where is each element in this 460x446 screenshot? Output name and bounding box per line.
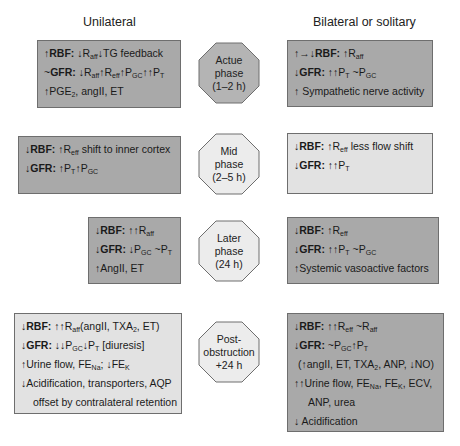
bilateral-mid-box: ↓RBF: ↑Reff less flow shift ↓GFR: ↑↑PT	[287, 133, 433, 194]
urea-line: ANP, urea	[294, 393, 437, 412]
phase-mid-octagon: Mid phase (2–5 h)	[198, 133, 260, 195]
bilateral-acute-box: ↑→↓RBF: ↑Raff ↓GFR: ↑↑PT ~PGC ↑ Sympathe…	[287, 40, 433, 107]
rbf-line: ↓RBF: ↑↑Reff ~Raff	[294, 317, 437, 336]
phase-label: Mid phase (2–5 h)	[212, 145, 245, 184]
gfr-line: ↓GFR: ↑PT↑PGC	[25, 159, 174, 178]
unilateral-title: Unilateral	[83, 15, 136, 29]
rbf-line: ↓RBF: ↑Reff less flow shift	[294, 137, 426, 156]
unilateral-mid-box: ↓RBF: ↑Reff shift to inner cortex ↓GFR: …	[18, 136, 181, 194]
phase-acute-octagon: Actue phase (1–2 h)	[198, 42, 260, 104]
phase-label: Actue phase (1–2 h)	[212, 54, 245, 93]
unilateral-post-box: ↓RBF: ↑↑Raff(angII, TXA2, ET) ↓GFR: ↓↓PG…	[14, 313, 182, 414]
systemic-line: ↑Systemic vasoactive factors	[294, 259, 432, 278]
gfr-line: ↓GFR: ↑↑PT ~PGC	[294, 63, 426, 82]
sympathetic-line: ↑ Sympathetic nerve activity	[294, 82, 426, 101]
unilateral-acute-box: ↑RBF: ↓Raff↓TG feedback ~GFR: ↓Raff↑Reff…	[37, 40, 181, 108]
gfr-line: ↓GFR: ↑↑PT ~PGC	[294, 240, 432, 259]
phase-label: Post- obstruction +24 h	[203, 333, 254, 372]
gfr-line: ↓GFR: ~PGC↑PT	[294, 336, 437, 355]
acidification-line: ↓Acidification, transporters, AQP	[21, 374, 175, 393]
bilateral-title: Bilateral or solitary	[313, 15, 416, 29]
mediator-line: (↑angII, ET, TXA2, ANP, ↓NO)	[294, 355, 437, 374]
bilateral-later-box: ↓RBF: ↑Reff ↓GFR: ↑↑PT ~PGC ↑Systemic va…	[287, 217, 439, 284]
rbf-line: ↓RBF: ↑↑Raff	[95, 221, 174, 240]
phase-later-octagon: Later phase (24 h)	[198, 220, 260, 282]
rbf-line: ↓RBF: ↑↑Raff(angII, TXA2, ET)	[21, 317, 175, 336]
mediator-line: ↑AngII, ET	[95, 259, 174, 278]
urine-line: ↑Urine flow, FENa; ↓FEK	[21, 355, 175, 374]
gfr-line: ~GFR: ↓Raff↑Reff↑PGC↑↑PT	[44, 63, 174, 82]
phase-post-octagon: Post- obstruction +24 h	[198, 321, 260, 383]
phase-label: Later phase (24 h)	[215, 232, 244, 271]
mediator-line: ↑PGE2, angII, ET	[44, 82, 174, 101]
acidification-line: ↓ Acidification	[294, 412, 437, 431]
rbf-line: ↑RBF: ↓Raff↓TG feedback	[44, 44, 174, 63]
rbf-line: ↓RBF: ↑Reff shift to inner cortex	[25, 140, 174, 159]
rbf-line: ↑→↓RBF: ↑Raff	[294, 44, 426, 63]
gfr-line: ↓GFR: ↓↓PGC↓PT [diuresis]	[21, 336, 175, 355]
unilateral-later-box: ↓RBF: ↑↑Raff ↓GFR: ↓PGC ~PT ↑AngII, ET	[88, 217, 181, 284]
rbf-line: ↓RBF: ↑Reff	[294, 221, 432, 240]
gfr-line: ↓GFR: ↑↑PT	[294, 156, 426, 175]
bilateral-post-box: ↓RBF: ↑↑Reff ~Raff ↓GFR: ~PGC↑PT (↑angII…	[287, 313, 444, 432]
offset-line: offset by contralateral retention	[21, 393, 175, 412]
gfr-line: ↓GFR: ↓PGC ~PT	[95, 240, 174, 259]
urine-line: ↑↑Urine flow, FENa, FEK, ECV,	[294, 374, 437, 393]
